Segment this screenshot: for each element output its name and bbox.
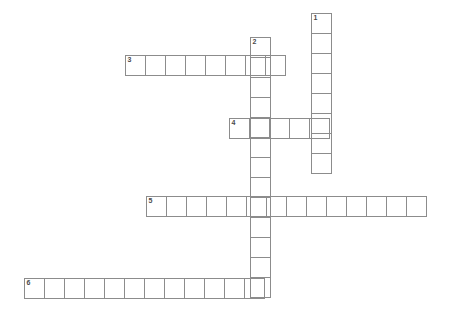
crossword-entry-2-down[interactable]: 2 (250, 37, 271, 298)
cell-letter (266, 56, 285, 75)
cell-letter (147, 197, 166, 216)
cell-letter (246, 56, 265, 75)
crossword-cell[interactable] (306, 196, 327, 217)
cell-letter (207, 197, 226, 216)
crossword-cell[interactable] (124, 278, 145, 299)
cell-letter (312, 14, 331, 33)
crossword-cell[interactable] (224, 278, 245, 299)
crossword-cell[interactable] (386, 196, 407, 217)
crossword-cell[interactable] (326, 196, 347, 217)
crossword-cell[interactable] (166, 196, 187, 217)
crossword-entry-1-down[interactable]: 1 (311, 13, 332, 174)
crossword-cell[interactable] (205, 55, 226, 76)
cell-letter (312, 94, 331, 113)
crossword-cell[interactable] (185, 55, 206, 76)
crossword-cell[interactable]: 3 (125, 55, 146, 76)
crossword-cell[interactable] (250, 97, 271, 118)
cell-letter (125, 279, 144, 298)
cell-letter (247, 197, 266, 216)
crossword-cell[interactable] (206, 196, 227, 217)
cell-letter (227, 197, 246, 216)
cell-letter (312, 54, 331, 73)
cell-letter (312, 154, 331, 173)
crossword-cell[interactable] (311, 33, 332, 54)
cell-letter (327, 197, 346, 216)
cell-letter (25, 279, 44, 298)
crossword-cell[interactable] (346, 196, 367, 217)
crossword-cell[interactable] (289, 118, 310, 139)
crossword-cell[interactable] (250, 217, 271, 238)
cell-letter (251, 258, 270, 277)
crossword-cell[interactable] (286, 196, 307, 217)
crossword-cell[interactable] (244, 278, 265, 299)
crossword-cell[interactable] (225, 55, 246, 76)
crossword-cell[interactable] (311, 73, 332, 94)
crossword-cell[interactable] (311, 53, 332, 74)
crossword-cell[interactable] (250, 137, 271, 158)
cell-letter (387, 197, 406, 216)
cell-letter (185, 279, 204, 298)
crossword-grid: 123456 (0, 0, 455, 318)
crossword-cell[interactable] (184, 278, 205, 299)
cell-letter (250, 119, 269, 138)
crossword-cell[interactable] (250, 157, 271, 178)
crossword-cell[interactable] (84, 278, 105, 299)
cell-letter (85, 279, 104, 298)
cell-letter (245, 279, 264, 298)
crossword-cell[interactable] (64, 278, 85, 299)
cell-letter (165, 279, 184, 298)
cell-letter (186, 56, 205, 75)
cell-letter (225, 279, 244, 298)
cell-letter (45, 279, 64, 298)
cell-letter (251, 78, 270, 97)
cell-letter (312, 34, 331, 53)
cell-letter (105, 279, 124, 298)
cell-letter (407, 197, 426, 216)
crossword-cell[interactable] (366, 196, 387, 217)
crossword-cell[interactable] (165, 55, 186, 76)
crossword-cell[interactable] (44, 278, 65, 299)
crossword-entry-3-across[interactable]: 3 (125, 55, 286, 76)
crossword-cell[interactable] (250, 237, 271, 258)
crossword-cell[interactable] (246, 196, 267, 217)
cell-letter (145, 279, 164, 298)
crossword-cell[interactable] (311, 93, 332, 114)
crossword-entry-5-across[interactable]: 5 (146, 196, 427, 217)
cell-letter (187, 197, 206, 216)
crossword-cell[interactable] (269, 118, 290, 139)
cell-letter (251, 218, 270, 237)
crossword-cell[interactable] (250, 77, 271, 98)
crossword-cell[interactable]: 4 (229, 118, 250, 139)
crossword-cell[interactable]: 5 (146, 196, 167, 217)
cell-letter (251, 178, 270, 197)
crossword-cell[interactable]: 1 (311, 13, 332, 34)
crossword-cell[interactable] (265, 55, 286, 76)
crossword-cell[interactable] (245, 55, 266, 76)
crossword-cell[interactable] (144, 278, 165, 299)
cell-letter (251, 138, 270, 157)
cell-letter (287, 197, 306, 216)
crossword-cell[interactable] (186, 196, 207, 217)
crossword-cell[interactable] (406, 196, 427, 217)
crossword-cell[interactable] (309, 118, 330, 139)
crossword-entry-6-across[interactable]: 6 (24, 278, 265, 299)
cell-letter (167, 197, 186, 216)
cell-letter (307, 197, 326, 216)
crossword-cell[interactable] (164, 278, 185, 299)
crossword-cell[interactable]: 6 (24, 278, 45, 299)
crossword-cell[interactable] (311, 153, 332, 174)
crossword-cell[interactable] (249, 118, 270, 139)
crossword-cell[interactable] (145, 55, 166, 76)
crossword-cell[interactable] (226, 196, 247, 217)
crossword-cell[interactable] (250, 257, 271, 278)
cell-letter (146, 56, 165, 75)
crossword-cell[interactable] (204, 278, 225, 299)
crossword-cell[interactable] (250, 177, 271, 198)
crossword-cell[interactable] (104, 278, 125, 299)
cell-letter (166, 56, 185, 75)
cell-letter (290, 119, 309, 138)
crossword-entry-4-across[interactable]: 4 (229, 118, 330, 139)
cell-letter (206, 56, 225, 75)
cell-letter (367, 197, 386, 216)
crossword-cell[interactable] (266, 196, 287, 217)
